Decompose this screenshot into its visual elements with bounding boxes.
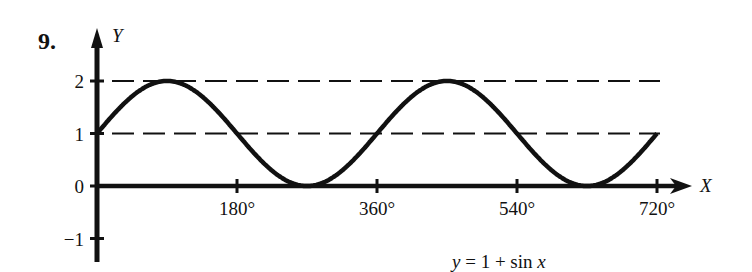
x-tick-label: 180° (219, 198, 255, 219)
x-tick-label: 720° (639, 198, 675, 219)
equation-caption: y = 1 + sin x (450, 251, 546, 272)
x-tick-label: 360° (359, 198, 395, 219)
y-tick-label: −1 (64, 229, 84, 250)
y-axis-label: Y (112, 25, 125, 46)
y-tick-label: 0 (75, 176, 85, 197)
problem-number: 9. (38, 28, 56, 54)
x-tick-label: 540° (499, 198, 535, 219)
y-axis-arrow-icon (91, 28, 103, 48)
axis-ticks: 180°360°540°720°−1012 (64, 71, 675, 250)
sine-graph: 9. Y X 180°360°540°720°−1012 y = 1 + sin… (0, 0, 752, 272)
y-tick-label: 2 (75, 71, 85, 92)
y-tick-label: 1 (75, 124, 85, 145)
x-axis-label: X (699, 175, 713, 196)
